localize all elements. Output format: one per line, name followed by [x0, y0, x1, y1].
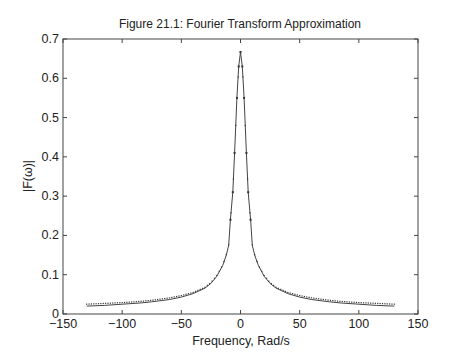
data-point — [193, 292, 194, 293]
data-point — [214, 278, 215, 279]
chart: Figure 21.1: Fourier Transform Approxima… — [0, 0, 450, 355]
data-point — [337, 300, 338, 301]
data-point — [301, 295, 302, 296]
data-point — [167, 298, 168, 299]
data-point — [349, 301, 350, 302]
data-point — [372, 303, 373, 304]
data-point — [212, 281, 213, 282]
data-point — [157, 299, 158, 300]
data-point — [93, 303, 94, 304]
data-point — [358, 302, 359, 303]
data-point — [316, 298, 317, 299]
data-point — [256, 261, 257, 262]
data-point — [247, 191, 249, 193]
data-point — [141, 301, 142, 302]
data-point — [247, 179, 248, 180]
data-point — [325, 299, 326, 300]
data-point — [145, 300, 146, 301]
data-point — [318, 298, 319, 299]
data-point — [377, 303, 378, 304]
data-point — [245, 152, 247, 154]
data-point — [245, 125, 246, 126]
y-tick-label: 0.7 — [42, 32, 59, 46]
data-point — [285, 291, 286, 292]
data-point — [226, 254, 227, 255]
data-point — [236, 97, 238, 99]
data-point — [171, 297, 172, 298]
data-point — [278, 288, 279, 289]
y-axis-label: |F(ω)| — [21, 160, 35, 192]
data-point — [103, 303, 104, 304]
data-point — [252, 244, 253, 245]
data-point — [363, 302, 364, 303]
x-axis-ticks: −150−100−50050100150 — [49, 39, 429, 331]
y-tick-label: 0.2 — [42, 228, 59, 242]
data-point — [304, 296, 305, 297]
data-point — [283, 290, 284, 291]
data-point — [394, 304, 395, 305]
data-point — [197, 290, 198, 291]
data-point — [287, 292, 288, 293]
data-point — [155, 299, 156, 300]
data-point — [365, 302, 366, 303]
data-point — [152, 299, 153, 300]
data-point — [354, 302, 355, 303]
data-point — [190, 292, 191, 293]
data-point — [230, 212, 231, 213]
data-point — [233, 179, 234, 180]
data-point — [290, 292, 291, 293]
data-point — [320, 299, 321, 300]
data-point — [131, 301, 132, 302]
data-point — [391, 303, 392, 304]
data-point — [275, 287, 276, 288]
data-point — [188, 293, 189, 294]
data-point — [249, 212, 250, 213]
data-point — [143, 300, 144, 301]
data-point — [299, 295, 300, 296]
data-point — [129, 302, 130, 303]
data-point — [234, 152, 236, 154]
data-point — [240, 51, 242, 53]
data-point — [323, 299, 324, 300]
data-point — [86, 304, 87, 305]
data-point — [368, 302, 369, 303]
data-point — [297, 294, 298, 295]
data-point — [266, 278, 267, 279]
data-point — [138, 301, 139, 302]
data-point — [148, 300, 149, 301]
data-point — [342, 301, 343, 302]
x-axis-label: Frequency, Rad/s — [192, 334, 290, 348]
data-point — [306, 296, 307, 297]
y-tick-label: 0.3 — [42, 189, 59, 203]
data-point — [223, 261, 224, 262]
data-point — [243, 97, 245, 99]
data-point — [150, 300, 151, 301]
y-tick-label: 0 — [52, 307, 59, 321]
data-point — [232, 191, 234, 193]
data-point — [280, 289, 281, 290]
data-point — [216, 275, 217, 276]
data-point — [185, 294, 186, 295]
data-point — [242, 76, 243, 77]
y-axis-ticks: 00.10.20.30.40.50.60.7 — [42, 32, 418, 321]
data-point — [200, 289, 201, 290]
x-tick-label: 50 — [293, 317, 307, 331]
data-point — [351, 302, 352, 303]
data-point — [114, 302, 115, 303]
data-point — [309, 297, 310, 298]
data-point — [195, 291, 196, 292]
data-point — [384, 303, 385, 304]
data-point — [100, 303, 101, 304]
data-point — [126, 302, 127, 303]
data-point — [311, 297, 312, 298]
data-point — [259, 266, 260, 267]
x-tick-label: 100 — [348, 317, 369, 331]
data-point — [181, 295, 182, 296]
data-point — [228, 244, 229, 245]
data-point — [238, 66, 240, 68]
data-point — [110, 303, 111, 304]
data-point — [122, 302, 123, 303]
data-point — [382, 303, 383, 304]
data-point — [183, 294, 184, 295]
data-point — [330, 300, 331, 301]
